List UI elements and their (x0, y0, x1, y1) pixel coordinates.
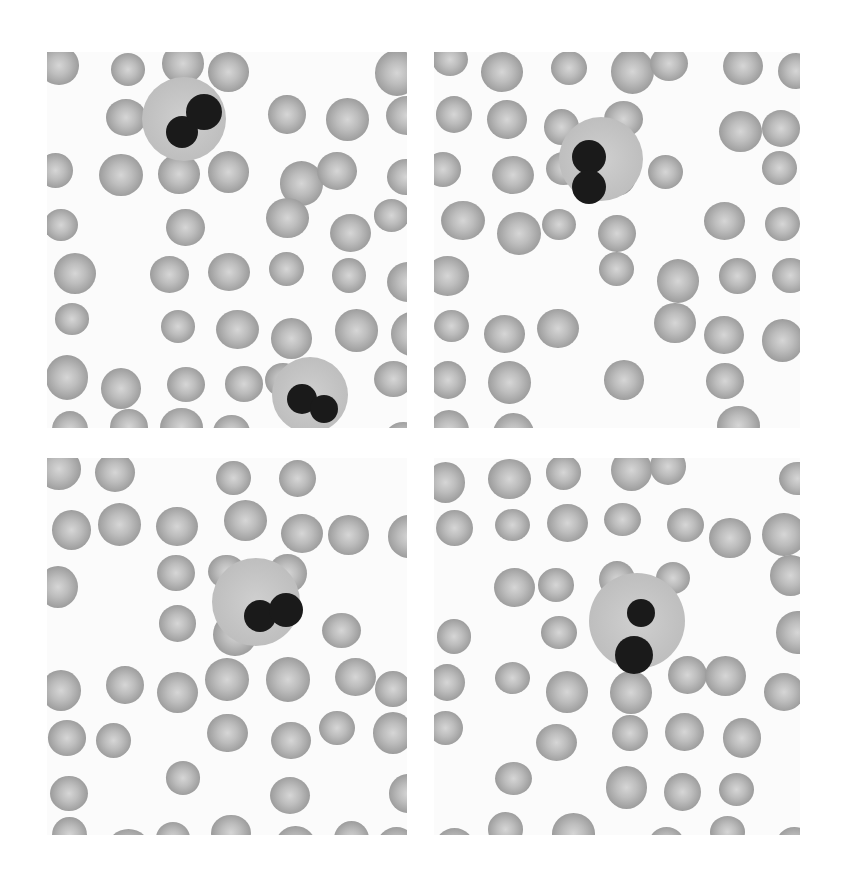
red-blood-cell (99, 154, 143, 196)
red-blood-cell (762, 319, 800, 361)
red-blood-cell (334, 821, 369, 835)
red-blood-cell (436, 510, 473, 546)
red-blood-cell (387, 159, 407, 195)
red-blood-cell (54, 253, 96, 294)
red-blood-cell (612, 715, 648, 751)
red-blood-cell (493, 413, 534, 428)
red-blood-cell (374, 361, 407, 397)
red-blood-cell (546, 671, 589, 713)
red-blood-cell (762, 110, 800, 147)
nucleus-lobe (572, 140, 606, 174)
red-blood-cell (208, 52, 249, 92)
red-blood-cell (536, 724, 577, 761)
red-blood-cell (95, 458, 135, 492)
red-blood-cell (157, 672, 198, 714)
red-blood-cell (47, 153, 73, 188)
red-blood-cell (542, 209, 576, 240)
red-blood-cell (106, 666, 144, 704)
red-blood-cell (604, 360, 644, 400)
red-blood-cell (106, 99, 146, 136)
red-blood-cell (48, 720, 87, 755)
red-blood-cell (156, 822, 190, 835)
red-blood-cell (709, 518, 750, 558)
red-blood-cell (388, 515, 407, 558)
micrograph-panel-top-right (434, 52, 800, 428)
red-blood-cell (328, 515, 369, 555)
red-blood-cell (47, 566, 78, 608)
red-blood-cell (373, 712, 407, 754)
red-blood-cell (434, 361, 466, 399)
red-blood-cell (275, 826, 315, 835)
red-blood-cell (166, 209, 205, 246)
red-blood-cell (494, 568, 535, 607)
red-blood-cell (335, 658, 376, 696)
red-blood-cell (271, 722, 311, 760)
red-blood-cell (319, 711, 354, 745)
nucleus-lobe (186, 94, 222, 130)
red-blood-cell (762, 513, 800, 556)
red-blood-cell (710, 816, 746, 835)
red-blood-cell (537, 309, 579, 348)
red-blood-cell (159, 605, 196, 642)
red-blood-cell (52, 817, 87, 835)
red-blood-cell (332, 258, 366, 292)
red-blood-cell (648, 155, 683, 189)
red-blood-cell (322, 613, 361, 649)
red-blood-cell (611, 52, 654, 94)
red-blood-cell (762, 151, 797, 185)
red-blood-cell (157, 555, 195, 592)
red-blood-cell (488, 459, 530, 499)
red-blood-cell (667, 508, 704, 542)
micrograph-panel-top-left (47, 52, 407, 428)
red-blood-cell (779, 462, 800, 496)
red-blood-cell (52, 411, 88, 428)
red-blood-cell (47, 52, 79, 85)
red-blood-cell (717, 406, 760, 428)
red-blood-cell (657, 259, 699, 303)
red-blood-cell (216, 461, 250, 495)
red-blood-cell (271, 318, 312, 359)
red-blood-cell (150, 256, 189, 292)
red-blood-cell (611, 458, 652, 491)
nucleus-lobe (572, 170, 606, 204)
red-blood-cell (552, 813, 595, 835)
red-blood-cell (167, 367, 205, 402)
red-blood-cell (98, 503, 141, 546)
red-blood-cell (160, 408, 203, 428)
red-blood-cell (599, 252, 634, 286)
red-blood-cell (269, 252, 304, 286)
red-blood-cell (335, 309, 379, 352)
red-blood-cell (434, 664, 465, 701)
micrograph-panel-bottom-left (47, 458, 407, 835)
red-blood-cell (281, 514, 323, 553)
red-blood-cell (436, 96, 473, 133)
nucleus-lobe (615, 636, 653, 674)
red-blood-cell (317, 152, 357, 190)
red-blood-cell (481, 52, 524, 92)
red-blood-cell (377, 827, 407, 835)
red-blood-cell (111, 53, 146, 86)
red-blood-cell (704, 202, 745, 240)
red-blood-cell (484, 315, 525, 352)
red-blood-cell (374, 199, 407, 231)
red-blood-cell (723, 52, 763, 85)
red-blood-cell (719, 111, 762, 153)
red-blood-cell (488, 812, 523, 835)
red-blood-cell (96, 723, 132, 759)
red-blood-cell (389, 774, 407, 813)
red-blood-cell (279, 460, 316, 497)
red-blood-cell (208, 253, 250, 291)
red-blood-cell (497, 212, 541, 255)
red-blood-cell (207, 714, 247, 753)
red-blood-cell (723, 718, 761, 757)
red-blood-cell (434, 256, 469, 296)
red-blood-cell (107, 829, 151, 835)
red-blood-cell (610, 671, 653, 714)
red-blood-cell (441, 201, 485, 240)
red-blood-cell (384, 422, 407, 428)
red-blood-cell (435, 828, 474, 835)
red-blood-cell (52, 510, 91, 550)
red-blood-cell (391, 312, 407, 356)
red-blood-cell (266, 657, 310, 702)
red-blood-cell (224, 500, 267, 541)
